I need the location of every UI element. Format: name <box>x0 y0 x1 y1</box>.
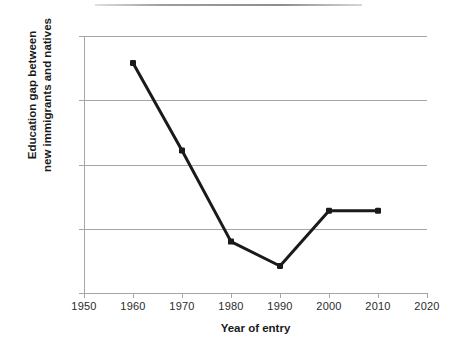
x-tick-mark <box>231 293 232 298</box>
x-tick-label: 1990 <box>257 300 303 312</box>
y-axis-title-line1: Education gap between <box>25 0 40 195</box>
gridline-y <box>84 100 427 101</box>
gridline-y <box>84 165 427 166</box>
x-axis-line <box>84 293 427 294</box>
y-axis-line <box>84 36 85 294</box>
chart-screenshot: 0.0-0.5-1.0-1.5-2.0 19501960197019801990… <box>0 0 454 352</box>
x-tick-mark <box>427 293 428 298</box>
gridline-y <box>84 229 427 230</box>
x-tick-mark <box>378 293 379 298</box>
x-tick-mark <box>280 293 281 298</box>
x-tick-label: 2010 <box>355 300 401 312</box>
x-tick-mark <box>84 293 85 298</box>
y-axis-title-line2: new immigrants and natives <box>40 0 55 195</box>
x-tick-label: 2020 <box>404 300 450 312</box>
plot-area <box>84 36 427 293</box>
x-axis-title: Year of entry <box>84 322 427 334</box>
y-axis-title: Education gap between new immigrants and… <box>25 0 55 195</box>
gridline-y <box>84 36 427 37</box>
x-tick-mark <box>182 293 183 298</box>
x-tick-label: 1980 <box>208 300 254 312</box>
x-tick-mark <box>133 293 134 298</box>
x-tick-mark <box>329 293 330 298</box>
x-tick-label: 1950 <box>61 300 107 312</box>
y-tick-mark <box>79 165 84 166</box>
line-chart: 0.0-0.5-1.0-1.5-2.0 19501960197019801990… <box>0 0 454 352</box>
y-tick-mark <box>79 100 84 101</box>
x-tick-label: 2000 <box>306 300 352 312</box>
x-tick-label: 1960 <box>110 300 156 312</box>
y-tick-mark <box>79 36 84 37</box>
y-tick-mark <box>79 229 84 230</box>
x-tick-label: 1970 <box>159 300 205 312</box>
